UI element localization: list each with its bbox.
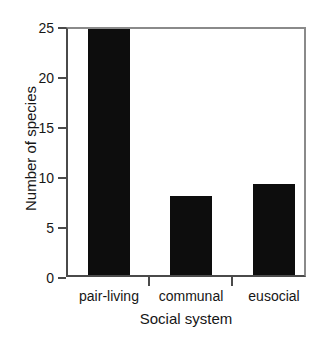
x-tick-label-eusocial: eusocial (219, 288, 329, 304)
y-tick-mark-20 (58, 77, 66, 79)
y-tick-label-10: 10 (14, 170, 54, 186)
x-axis-title: Social system (66, 310, 306, 327)
y-tick-mark-25 (58, 27, 66, 29)
bar-pair-living (88, 29, 130, 275)
x-tick-mark-2 (231, 277, 233, 286)
x-tick-mark-1 (148, 277, 150, 286)
y-tick-label-20: 20 (14, 70, 54, 86)
y-tick-label-25: 25 (14, 20, 54, 36)
y-tick-label-0: 0 (14, 270, 54, 286)
bar-communal (170, 196, 212, 275)
y-tick-label-15: 15 (14, 120, 54, 136)
bar-chart-figure: Number of species 25 20 15 10 5 0 pair-l… (0, 0, 332, 345)
y-tick-mark-10 (58, 177, 66, 179)
y-tick-mark-15 (58, 127, 66, 129)
y-tick-mark-5 (58, 227, 66, 229)
bar-eusocial (253, 184, 295, 275)
y-tick-label-5: 5 (14, 220, 54, 236)
y-tick-mark-0 (58, 277, 66, 279)
plot-area (66, 27, 306, 277)
